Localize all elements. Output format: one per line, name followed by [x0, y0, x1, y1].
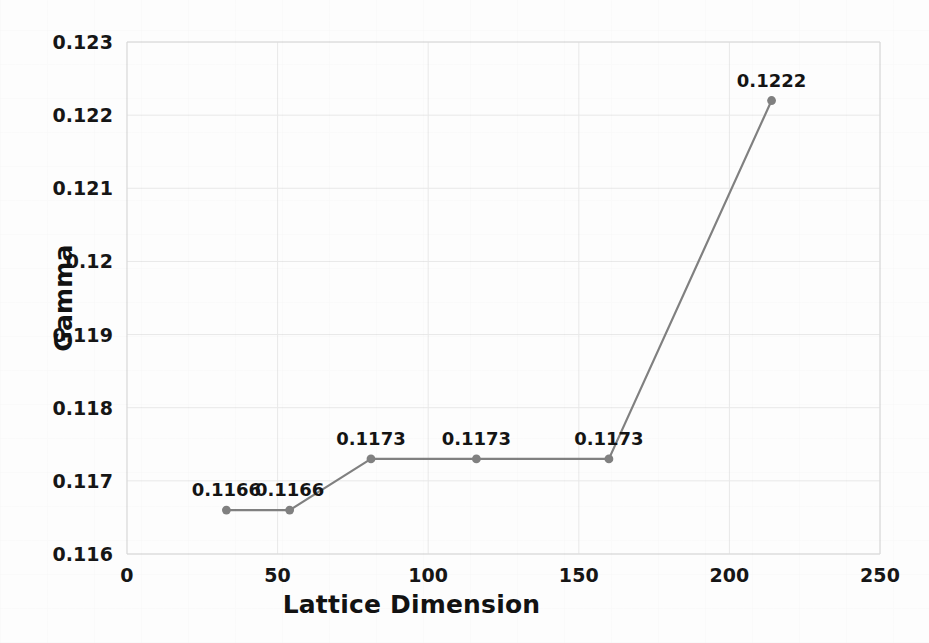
data-point-label: 0.1173 [336, 428, 405, 449]
gridlines [127, 42, 880, 554]
y-tick-label: 0.123 [0, 31, 113, 53]
chart-figure: 0.1160.1170.1180.1190.120.1210.1220.123 … [0, 0, 929, 643]
x-tick-label: 200 [709, 564, 749, 586]
x-axis-title-text: Lattice Dimension [283, 590, 541, 619]
data-point-markers [222, 96, 776, 514]
data-point-label: 0.1173 [442, 428, 511, 449]
data-point-label: 0.1173 [574, 428, 643, 449]
x-tick-label: 100 [408, 564, 448, 586]
y-axis-title: Gamma [49, 244, 78, 351]
y-tick-label: 0.122 [0, 104, 113, 126]
y-tick-label: 0.121 [0, 177, 113, 199]
y-tick-label: 0.118 [0, 397, 113, 419]
x-tick-label: 0 [120, 564, 133, 586]
data-point-label: 0.1166 [192, 479, 261, 500]
x-tick-label: 150 [559, 564, 599, 586]
y-tick-label: 0.117 [0, 470, 113, 492]
plot-canvas [0, 0, 929, 643]
y-tick-label: 0.116 [0, 543, 113, 565]
x-tick-label: 250 [860, 564, 900, 586]
axis-frame [127, 42, 880, 554]
x-axis-title: Lattice Dimension [0, 590, 929, 619]
x-tick-label: 50 [264, 564, 291, 586]
data-point-label: 0.1222 [737, 70, 806, 91]
data-point-label: 0.1166 [255, 479, 324, 500]
